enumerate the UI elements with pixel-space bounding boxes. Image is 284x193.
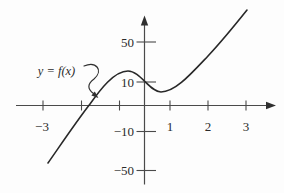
function-curve <box>48 10 247 163</box>
x-tick-label-1: 1 <box>167 119 174 134</box>
plot-canvas: y = f(x) 50 10 −10 −50 −3 1 2 3 <box>0 0 284 193</box>
y-tick-label-neg50: −50 <box>114 163 134 178</box>
y-tick-label-neg10: −10 <box>114 124 134 139</box>
x-tick-label-2: 2 <box>205 119 212 134</box>
x-axis-arrowhead-icon <box>266 102 276 109</box>
function-graph-figure: y = f(x) 50 10 −10 −50 −3 1 2 3 <box>0 0 284 193</box>
x-tick-label-neg3: −3 <box>35 119 49 134</box>
y-tick-label-10: 10 <box>121 75 134 90</box>
x-tick-label-3: 3 <box>243 119 250 134</box>
curve-label: y = f(x) <box>36 64 76 78</box>
y-tick-label-50: 50 <box>121 35 134 50</box>
y-axis-arrowhead-icon <box>141 16 148 26</box>
label-pointer-arrow <box>84 65 99 94</box>
